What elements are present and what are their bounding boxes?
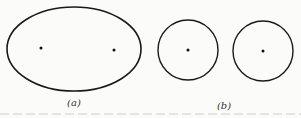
panel-label-a: (a)	[67, 97, 81, 108]
figure-canvas	[0, 0, 301, 118]
ellipse-a	[7, 7, 141, 91]
center-point-b-left	[187, 49, 190, 52]
focus-point-left	[40, 47, 43, 50]
center-point-b-right	[262, 50, 265, 53]
focus-point-right	[113, 49, 116, 52]
cutoff-caption-line	[0, 113, 301, 118]
panel-label-b: (b)	[217, 100, 231, 111]
